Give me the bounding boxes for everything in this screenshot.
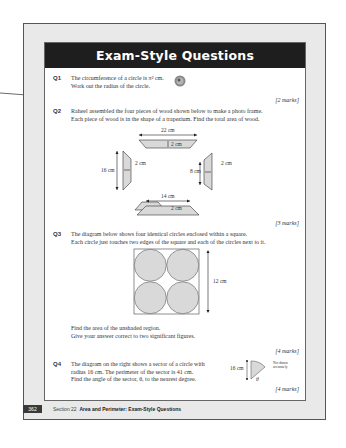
note-line: accurately	[273, 365, 288, 369]
label-sector-angle: θ	[256, 376, 259, 382]
label-bottom-height: 2 cm	[171, 205, 182, 211]
question-number: Q4	[53, 361, 61, 369]
section-label: Section 22	[53, 406, 77, 412]
textbook-page: Exam-Style Questions Q1 The circumferenc…	[23, 23, 326, 420]
marks-q4: [4 marks]	[275, 386, 299, 392]
label-left-height: 16 cm	[101, 167, 115, 173]
question-text-line: radius 16 cm. The perimeter of the secto…	[71, 369, 205, 377]
page-number: 362	[23, 405, 42, 413]
marks-q2: [3 marks]	[275, 220, 299, 226]
label-right-height: 8 cm	[190, 168, 201, 174]
question-number: Q3	[53, 231, 61, 239]
marks-q3: [4 marks]	[275, 348, 299, 354]
question-text-line: The circumference of a circle is π² cm.	[71, 75, 164, 83]
footer-section: Section 22 Area and Perimeter: Exam-Styl…	[53, 405, 181, 413]
label-right-width: 2 cm	[221, 160, 232, 166]
question-text-line: Give your answer correct to two signific…	[71, 333, 195, 341]
label-sector-radius: 16 cm	[230, 365, 244, 371]
question-number: Q2	[53, 108, 61, 116]
label-top-width: 22 cm	[161, 127, 175, 133]
circles-in-square-diagram	[134, 249, 214, 319]
note-not-drawn: Not drawn accurately	[273, 361, 288, 369]
question-text-line: The diagram below shows four identical c…	[71, 231, 265, 239]
question-text-line: Find the angle of the sector, θ, to the …	[71, 376, 205, 384]
question-text-line: The diagram on the right shows a sector …	[71, 361, 205, 369]
page-title: Exam-Style Questions	[45, 43, 305, 68]
label-left-width: 2 cm	[135, 160, 146, 166]
calculator-icon	[174, 75, 186, 87]
sector-diagram	[245, 357, 275, 387]
question-text-line: Work out the radius of the circle.	[71, 83, 164, 91]
question-number: Q1	[53, 75, 61, 83]
question-text-line: Each piece of wood is in the shape of a …	[71, 116, 263, 124]
question-text-line: Each circle just touches two edges of th…	[71, 239, 265, 247]
label-square-side: 12 cm	[213, 278, 227, 284]
label-top-height: 2 cm	[171, 141, 182, 147]
section-title: Area and Perimeter: Exam-Style Questions	[79, 406, 181, 412]
label-bottom-width: 14 cm	[161, 193, 175, 199]
marks-q1: [2 marks]	[275, 97, 299, 103]
questions-box: Exam-Style Questions Q1 The circumferenc…	[44, 42, 306, 401]
question-text-line: Find the area of the unshaded region.	[71, 325, 195, 333]
question-text-line: Raheel assembled the four pieces of wood…	[71, 108, 263, 116]
